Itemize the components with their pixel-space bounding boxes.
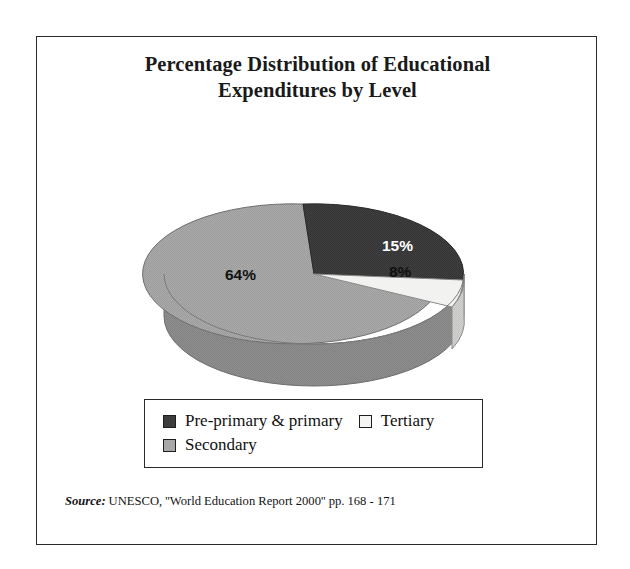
pie-label-tertiary: 8% — [389, 263, 411, 281]
legend-swatch-secondary — [163, 439, 176, 452]
legend-label-pre-primary-and-primary: Pre-primary & primary — [185, 411, 343, 431]
legend-row-2: Secondary — [163, 433, 482, 457]
legend-row-1: Pre-primary & primary Tertiary — [163, 409, 482, 433]
source-text: UNESCO, ''World Education Report 2000'' … — [109, 494, 396, 508]
legend-item-pre-primary-and-primary: Pre-primary & primary — [163, 411, 359, 431]
chart-title-line-2: Expenditures by Level — [37, 77, 598, 103]
pie-label-secondary: 64% — [225, 266, 256, 284]
figure-frame: Percentage Distribution of Educational E… — [36, 36, 597, 545]
chart-title-line-1: Percentage Distribution of Educational — [37, 51, 598, 77]
chart-legend: Pre-primary & primary Tertiary Secondary — [144, 399, 483, 468]
legend-item-secondary: Secondary — [163, 435, 273, 455]
pie-label-preprimary: 15% — [382, 237, 413, 255]
legend-swatch-pre-primary-and-primary — [163, 415, 176, 428]
legend-label-secondary: Secondary — [185, 435, 257, 455]
legend-swatch-tertiary — [359, 415, 372, 428]
legend-label-tertiary: Tertiary — [381, 411, 435, 431]
pie-chart: 64% 15% 8% — [37, 129, 598, 397]
chart-title: Percentage Distribution of Educational E… — [37, 51, 598, 103]
pie-chart-graphic — [37, 129, 598, 397]
source-label: Source: — [65, 494, 106, 508]
legend-item-tertiary: Tertiary — [359, 411, 451, 431]
source-note: Source:UNESCO, ''World Education Report … — [65, 494, 396, 509]
